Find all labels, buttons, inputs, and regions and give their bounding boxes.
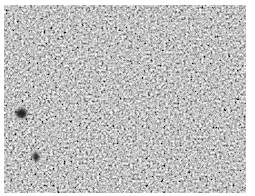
dark-feature-2 xyxy=(33,153,39,161)
micrograph-texture xyxy=(4,5,246,193)
image-frame xyxy=(0,0,255,196)
grain-texture xyxy=(4,5,246,193)
dark-feature-1 xyxy=(16,109,27,118)
